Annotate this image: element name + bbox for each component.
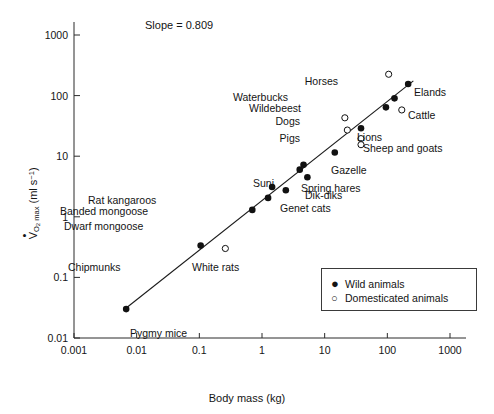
x-tick-label: 0.1 [192, 344, 207, 356]
point-label: Suni [253, 178, 274, 189]
x-tick-label: 0.01 [126, 344, 146, 356]
slope-annotation: Slope = 0.809 [145, 19, 213, 31]
x-tick-label: 0.001 [61, 344, 87, 356]
legend-item-domesticated: ○Domesticated animals [331, 292, 448, 304]
point-label: Banded mongoose [60, 206, 148, 217]
x-tick-label: 10 [319, 344, 331, 356]
point-label: Wildebeest [0, 103, 301, 114]
legend-box: ●Wild animals ○Domesticated animals [321, 268, 477, 311]
point-label: Genet cats [280, 203, 331, 214]
point-label: Pygmy mice [130, 328, 187, 339]
x-axis-title-text: Body mass (kg) [209, 392, 285, 404]
y-tick-label: 1000 [18, 29, 68, 41]
point-label: White rats [192, 262, 239, 273]
v-dot-symbol: V [27, 232, 39, 239]
point-label: Dik-diks [305, 190, 342, 201]
y-tick-label: 10 [18, 150, 68, 162]
x-tick-label: 100 [379, 344, 397, 356]
filled-circle-icon: ● [331, 276, 345, 291]
legend-label-wild: Wild animals [345, 278, 405, 290]
point-label: Gazelle [331, 165, 367, 176]
figure-vo2max-vs-body-mass: Slope = 0.809 Body mass (kg) VO2 max (ml… [0, 0, 494, 414]
y-tick-label: 0.01 [18, 332, 68, 344]
y-tick-label: 0.1 [18, 271, 68, 283]
point-label: Elands [414, 87, 446, 98]
point-label: Horses [0, 76, 338, 87]
point-label: Sheep and goats [363, 143, 442, 154]
point-label: Rat kangaroos [88, 195, 156, 206]
point-label: Dwarf mongoose [64, 221, 143, 232]
point-label: Pigs [0, 133, 300, 144]
x-tick-label: 1 [259, 344, 265, 356]
legend-label-domesticated: Domesticated animals [345, 292, 448, 304]
x-tick-label: 1000 [438, 344, 461, 356]
legend-item-wild: ●Wild animals [331, 276, 405, 291]
point-label: Waterbucks [0, 92, 288, 103]
open-circle-icon: ○ [331, 292, 345, 304]
x-axis-title: Body mass (kg) [0, 392, 494, 404]
point-label: Chipmunks [68, 262, 121, 273]
point-label: Dogs [0, 116, 300, 127]
point-label: Cattle [408, 110, 435, 121]
